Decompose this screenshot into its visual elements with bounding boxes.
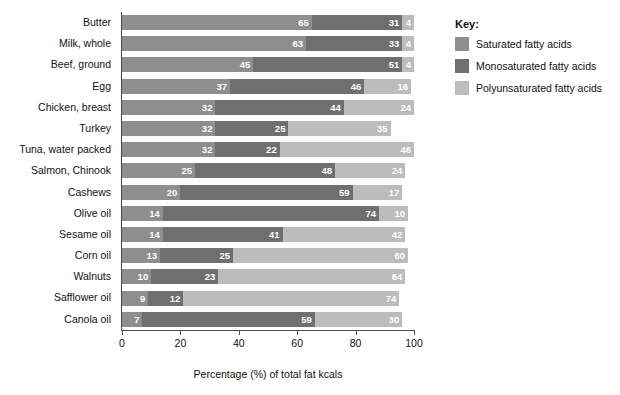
- x-axis-tick-label: 0: [102, 337, 142, 349]
- bar-value-label: 24: [392, 163, 403, 178]
- bar-value-label: 30: [389, 312, 400, 327]
- category-label: Tuna, water packed: [0, 139, 116, 160]
- bar-value-label: 32: [202, 100, 213, 115]
- bar-segment: 65: [122, 15, 312, 30]
- bar-row: 205917: [122, 185, 414, 200]
- x-axis-tick: [297, 331, 298, 335]
- category-label: Milk, whole: [0, 33, 116, 54]
- category-label: Corn oil: [0, 245, 116, 266]
- bar-segment: 33: [306, 36, 402, 51]
- bar-segment: 4: [402, 15, 414, 30]
- category-label: Turkey: [0, 118, 116, 139]
- x-axis-tick-label: 80: [336, 337, 376, 349]
- bar-segment: 10: [379, 206, 408, 221]
- plot-area: 6531463334455143746163244243225353222462…: [122, 12, 414, 330]
- bar-segment: 4: [402, 36, 414, 51]
- bar-value-label: 4: [406, 36, 411, 51]
- x-axis-tick-label: 100: [394, 337, 434, 349]
- bar-segment: 46: [280, 142, 414, 157]
- bar-segment: 22: [215, 142, 279, 157]
- bar-value-label: 13: [146, 248, 157, 263]
- bar-segment: 32: [122, 142, 215, 157]
- bar-value-label: 42: [392, 227, 403, 242]
- bar-value-label: 33: [389, 36, 400, 51]
- bar-segment: 16: [364, 79, 411, 94]
- bar-segment: 31: [312, 15, 403, 30]
- bar-row: 374616: [122, 79, 414, 94]
- bar-value-label: 4: [406, 57, 411, 72]
- bar-value-label: 59: [339, 185, 350, 200]
- bar-row: 102364: [122, 269, 414, 284]
- bar-segment: 14: [122, 206, 163, 221]
- bar-value-label: 4: [406, 15, 411, 30]
- bar-row: 254824: [122, 163, 414, 178]
- x-axis-tick-label: 60: [277, 337, 317, 349]
- bar-value-label: 37: [216, 79, 227, 94]
- bar-segment: 30: [315, 312, 403, 327]
- bar-segment: 42: [283, 227, 406, 242]
- bar-value-label: 20: [167, 185, 178, 200]
- bar-value-label: 25: [181, 163, 192, 178]
- bar-value-label: 59: [301, 312, 312, 327]
- bar-row: 91274: [122, 291, 414, 306]
- x-axis-line: [121, 330, 415, 331]
- bar-row: 75930: [122, 312, 414, 327]
- bar-value-label: 25: [275, 121, 286, 136]
- bar-row: 322535: [122, 121, 414, 136]
- category-label: Olive oil: [0, 203, 116, 224]
- bar-segment: 24: [344, 100, 414, 115]
- bar-segment: 13: [122, 248, 160, 263]
- bar-row: 144142: [122, 227, 414, 242]
- legend-swatch-icon: [455, 81, 469, 95]
- bar-segment: 20: [122, 185, 180, 200]
- bar-value-label: 64: [392, 269, 403, 284]
- bar-value-label: 60: [395, 248, 406, 263]
- bar-value-label: 63: [292, 36, 303, 51]
- bar-value-label: 32: [202, 121, 213, 136]
- x-axis-tick-label: 40: [219, 337, 259, 349]
- bar-segment: 44: [215, 100, 343, 115]
- bar-row: 322246: [122, 142, 414, 157]
- category-label: Walnuts: [0, 266, 116, 287]
- bar-segment: 23: [151, 269, 218, 284]
- x-axis-tick-label: 20: [160, 337, 200, 349]
- bar-segment: 35: [288, 121, 390, 136]
- bar-value-label: 44: [330, 100, 341, 115]
- bar-segment: 25: [122, 163, 195, 178]
- stacked-bar-chart: ButterMilk, wholeBeef, groundEggChicken,…: [0, 0, 620, 395]
- bar-segment: 64: [218, 269, 405, 284]
- bar-value-label: 17: [389, 185, 400, 200]
- bar-value-label: 35: [377, 121, 388, 136]
- category-label: Canola oil: [0, 309, 116, 330]
- bar-segment: 17: [353, 185, 403, 200]
- category-label: Beef, ground: [0, 54, 116, 75]
- bar-row: 63334: [122, 36, 414, 51]
- category-label: Safflower oil: [0, 287, 116, 308]
- bar-segment: 51: [253, 57, 402, 72]
- bar-segment: 7: [122, 312, 142, 327]
- bar-value-label: 23: [205, 269, 216, 284]
- bar-segment: 59: [142, 312, 314, 327]
- bar-segment: 24: [335, 163, 405, 178]
- bar-segment: 63: [122, 36, 306, 51]
- legend-item: Monosaturated fatty acids: [455, 59, 615, 73]
- bar-segment: 48: [195, 163, 335, 178]
- bar-segment: 9: [122, 291, 148, 306]
- bar-value-label: 7: [134, 312, 139, 327]
- legend-title: Key:: [455, 18, 615, 30]
- bar-value-label: 22: [266, 142, 277, 157]
- bar-value-label: 48: [322, 163, 333, 178]
- legend-item: Polyunsaturated fatty acids: [455, 81, 615, 95]
- legend-label: Saturated fatty acids: [476, 38, 572, 50]
- x-axis-tick: [239, 331, 240, 335]
- bar-row: 132560: [122, 248, 414, 263]
- legend: Key: Saturated fatty acidsMonosaturated …: [455, 18, 615, 103]
- bar-segment: 74: [183, 291, 399, 306]
- legend-label: Polyunsaturated fatty acids: [476, 82, 602, 94]
- bar-row: 147410: [122, 206, 414, 221]
- bar-segment: 25: [215, 121, 288, 136]
- bar-value-label: 24: [400, 100, 411, 115]
- category-label: Egg: [0, 76, 116, 97]
- bar-value-label: 14: [149, 206, 160, 221]
- bar-value-label: 51: [389, 57, 400, 72]
